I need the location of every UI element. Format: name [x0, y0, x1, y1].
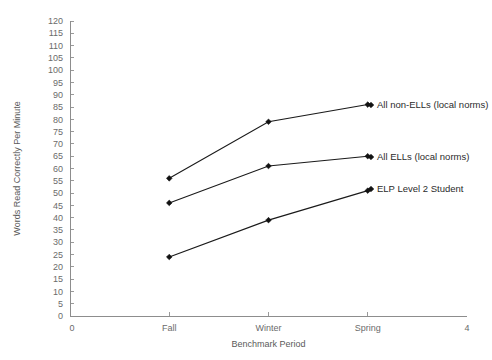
data-series-group — [166, 102, 370, 260]
series-leader-lines — [368, 102, 374, 192]
data-point-marker — [166, 200, 172, 206]
data-point-marker — [266, 119, 272, 125]
y-axis-tick-label: 70 — [53, 139, 63, 149]
y-axis-tick-label: 110 — [49, 41, 63, 51]
y-axis-tick-label: 95 — [53, 78, 63, 88]
series-label-all-ells: All ELLs (local norms) — [377, 151, 469, 162]
y-axis-tick-label: 25 — [53, 250, 63, 260]
y-axis-tick-label: 120 — [48, 16, 63, 26]
data-point-marker — [166, 176, 172, 182]
y-axis-title: Words Read Correctly Per Minute — [12, 101, 22, 235]
y-axis-tick-label: 15 — [53, 274, 63, 284]
y-axis-tick-label: 20 — [53, 262, 63, 272]
line-chart: 0510152025303540455055606570758085909510… — [0, 0, 492, 360]
y-axis-tick-label: 0 — [58, 311, 63, 321]
y-axis-tick-label: 45 — [53, 201, 63, 211]
y-axis-tick-label: 100 — [48, 65, 63, 75]
y-axis-tick-label: 10 — [53, 287, 63, 297]
data-point-marker — [266, 163, 272, 169]
x-axis-category-label: Spring — [355, 323, 381, 333]
y-axis-tick-label: 40 — [53, 213, 63, 223]
y-axis-tick-label: 105 — [48, 53, 63, 63]
data-point-marker — [266, 217, 272, 223]
y-axis-tick-label: 75 — [53, 127, 63, 137]
y-axis-tick-label: 85 — [53, 102, 63, 112]
data-point-marker — [166, 254, 172, 260]
y-axis-tick-label: 35 — [53, 225, 63, 235]
chart-container: 0510152025303540455055606570758085909510… — [0, 0, 492, 360]
y-axis-tick-label: 65 — [53, 151, 63, 161]
y-axis-tick-label: 90 — [53, 90, 63, 100]
y-axis-tick-label: 60 — [53, 164, 63, 174]
series-label-elp-level-2-student: ELP Level 2 Student — [377, 183, 464, 194]
y-axis-tick-label: 50 — [53, 188, 63, 198]
x-axis-end-label: 4 — [464, 323, 469, 333]
x-axis-tick-group: FallWinterSpring — [162, 312, 381, 333]
y-axis-tick-label: 5 — [58, 299, 63, 309]
y-axis-tick-label: 30 — [53, 237, 63, 247]
series-label-all-non-ells: All non-ELLs (local norms) — [377, 99, 488, 110]
y-axis-tick-label: 55 — [53, 176, 63, 186]
x-axis-category-label: Winter — [255, 323, 281, 333]
y-axis-tick-label: 80 — [53, 115, 63, 125]
x-axis-title: Benchmark Period — [231, 339, 305, 349]
x-axis-origin-label: 0 — [69, 323, 74, 333]
y-axis-tick-label: 115 — [49, 28, 63, 38]
x-axis-category-label: Fall — [162, 323, 177, 333]
series-line-2 — [169, 191, 368, 257]
